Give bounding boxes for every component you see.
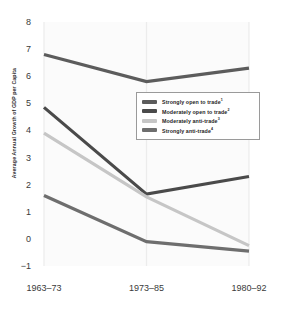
legend-label: Strongly open to trade1 — [162, 98, 223, 105]
x-tick-label: 1963–73 — [26, 283, 61, 293]
legend-swatch-icon — [142, 109, 157, 113]
legend-swatch-icon — [142, 119, 157, 123]
x-tick-label: 1980–92 — [231, 283, 266, 293]
chart-container: Average Annual Growth of GDP per Capita … — [0, 0, 283, 317]
legend-label: Strongly anti-trade4 — [162, 127, 213, 134]
series-line-0 — [44, 55, 249, 82]
y-tick-label: 2 — [1, 180, 31, 190]
legend-swatch-icon — [142, 128, 157, 132]
y-tick-label: −1 — [1, 261, 31, 271]
legend-item[interactable]: Strongly open to trade1 — [142, 97, 255, 107]
y-tick-label: 5 — [1, 98, 31, 108]
y-tick-label: 8 — [1, 17, 31, 27]
plot-area — [44, 22, 249, 266]
y-tick-label: 1 — [1, 207, 31, 217]
legend-swatch-icon — [142, 100, 157, 104]
y-tick-label: 7 — [1, 44, 31, 54]
y-tick-label: 6 — [1, 71, 31, 81]
chart-legend: Strongly open to trade1Moderately open t… — [136, 92, 260, 140]
y-tick-label: 0 — [1, 234, 31, 244]
legend-label: Moderately open to trade2 — [162, 108, 230, 115]
series-line-3 — [44, 196, 249, 252]
y-tick-label: 4 — [1, 125, 31, 135]
legend-footnote-marker: 1 — [221, 98, 223, 102]
x-tick-label: 1973–85 — [129, 283, 164, 293]
legend-item[interactable]: Moderately open to trade2 — [142, 107, 255, 117]
y-tick-label: 3 — [1, 153, 31, 163]
legend-item[interactable]: Moderately anti-trade3 — [142, 116, 255, 126]
legend-footnote-marker: 3 — [218, 117, 220, 121]
legend-label: Moderately anti-trade3 — [162, 117, 220, 124]
series-lines-layer — [44, 22, 249, 266]
series-line-2 — [44, 133, 249, 246]
legend-item[interactable]: Strongly anti-trade4 — [142, 126, 255, 136]
legend-footnote-marker: 2 — [227, 108, 229, 112]
legend-footnote-marker: 4 — [211, 127, 213, 131]
